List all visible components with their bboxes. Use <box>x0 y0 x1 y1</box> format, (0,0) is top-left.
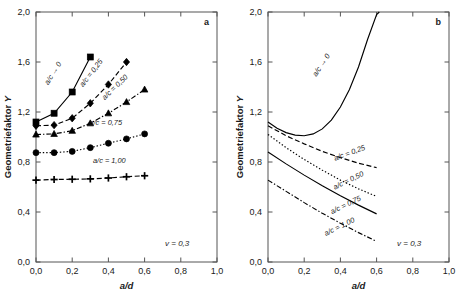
data-point-plus <box>123 173 130 180</box>
x-tick-label: 0,8 <box>175 266 188 276</box>
data-point-square <box>51 110 57 116</box>
y-tick-label: 1,2 <box>249 107 262 117</box>
series-label: a/c = 0,75 <box>89 118 123 127</box>
annotation-poisson-ratio: v = 0,3 <box>397 239 422 248</box>
y-tick-label: 0,4 <box>249 207 262 217</box>
data-point-plus <box>51 176 58 183</box>
series-curve <box>268 152 377 214</box>
series-4: a/c = 0,75 <box>33 118 148 155</box>
data-point-circle <box>142 131 148 137</box>
x-tick-label: 0,6 <box>138 266 151 276</box>
data-point-diamond <box>51 121 57 128</box>
y-axis-title: Geometriefaktor Y <box>2 94 13 178</box>
x-tick-label: 0,2 <box>66 266 79 276</box>
data-point-square <box>69 89 75 95</box>
y-axis-title-symbol: Y <box>234 94 245 102</box>
data-point-circle <box>105 140 111 146</box>
data-point-circle <box>33 150 39 156</box>
y-tick-label: 0,8 <box>249 157 262 167</box>
y-axis-title-text: Geometriefaktor <box>234 102 245 178</box>
y-tick-label: 0,4 <box>17 207 30 217</box>
x-tick-label: 1,0 <box>211 266 224 276</box>
data-point-plus <box>69 176 76 183</box>
series-label: a/c = 0,50 <box>332 169 366 192</box>
x-tick-label: 0,4 <box>102 266 115 276</box>
data-point-triangle <box>105 110 112 116</box>
chart-panel-b: 0,00,20,40,60,81,00,00,40,81,21,62,0a/dG… <box>232 0 463 307</box>
x-axis-title: a/d <box>120 280 134 291</box>
x-axis-title: a/d <box>352 280 366 291</box>
data-point-diamond <box>69 115 75 122</box>
data-point-plus <box>141 172 148 179</box>
series-1: a/c → 0 <box>33 54 93 125</box>
x-tick-label: 1,0 <box>443 266 456 276</box>
x-tick-label: 0,2 <box>298 266 311 276</box>
plot-frame <box>268 12 449 262</box>
y-tick-label: 0,0 <box>17 257 30 267</box>
y-tick-label: 2,0 <box>249 7 262 17</box>
data-point-plus <box>105 174 112 181</box>
data-point-circle <box>51 150 57 156</box>
y-tick-label: 2,0 <box>17 7 30 17</box>
series-5: a/c = 1,00 <box>268 180 377 241</box>
panel-letter: b <box>436 17 442 27</box>
x-tick-label: 0,0 <box>262 266 275 276</box>
x-tick-label: 0,6 <box>370 266 383 276</box>
series-5: a/c = 1,00 <box>32 156 148 184</box>
figure-container: 0,00,20,40,60,81,00,00,40,81,21,62,0a/dG… <box>0 0 463 307</box>
data-point-triangle <box>51 130 58 136</box>
series-label: a/c = 1,00 <box>323 215 357 238</box>
series-label: a/c = 1,00 <box>93 156 127 165</box>
series-label: a/c = 0,25 <box>333 143 368 163</box>
y-tick-label: 1,2 <box>17 107 30 117</box>
data-point-diamond <box>123 58 129 65</box>
series-curve <box>268 12 379 136</box>
series-curve <box>268 180 377 241</box>
series-label: a/c = 0,50 <box>100 72 130 102</box>
x-tick-label: 0,8 <box>407 266 420 276</box>
data-point-circle <box>124 136 130 142</box>
chart-svg-panel-a: 0,00,20,40,60,81,00,00,40,81,21,62,0a/dG… <box>0 0 231 307</box>
y-tick-label: 1,6 <box>249 57 262 67</box>
panel-letter: a <box>204 17 210 27</box>
data-point-triangle <box>141 86 148 92</box>
y-axis-title: Geometriefaktor Y <box>234 94 245 178</box>
y-tick-label: 0,0 <box>249 257 262 267</box>
x-axis: 0,00,20,40,60,81,0 <box>30 12 224 276</box>
y-axis-title-text: Geometriefaktor <box>2 102 13 178</box>
series-1: a/c → 0 <box>268 12 379 136</box>
x-tick-label: 0,0 <box>30 266 43 276</box>
x-tick-label: 0,4 <box>334 266 347 276</box>
y-axis-title-symbol: Y <box>2 94 13 102</box>
series-curve <box>36 57 90 122</box>
chart-svg-panel-b: 0,00,20,40,60,81,00,00,40,81,21,62,0a/dG… <box>232 0 463 307</box>
chart-panel-a: 0,00,20,40,60,81,00,00,40,81,21,62,0a/dG… <box>0 0 231 307</box>
series-4: a/c = 0,75 <box>268 152 377 216</box>
data-point-circle <box>87 145 93 151</box>
data-point-triangle <box>123 99 130 105</box>
y-tick-label: 0,8 <box>17 157 30 167</box>
data-point-square <box>87 54 93 60</box>
data-point-circle <box>69 148 75 154</box>
series-label: a/c → 0 <box>310 51 332 78</box>
series-label: a/c → 0 <box>42 59 64 86</box>
data-point-plus <box>87 175 94 182</box>
y-tick-label: 1,6 <box>17 57 30 67</box>
data-point-plus <box>32 177 39 184</box>
annotation-poisson-ratio: v = 0,3 <box>165 239 190 248</box>
y-axis: 0,00,40,81,21,62,0 <box>17 7 217 267</box>
